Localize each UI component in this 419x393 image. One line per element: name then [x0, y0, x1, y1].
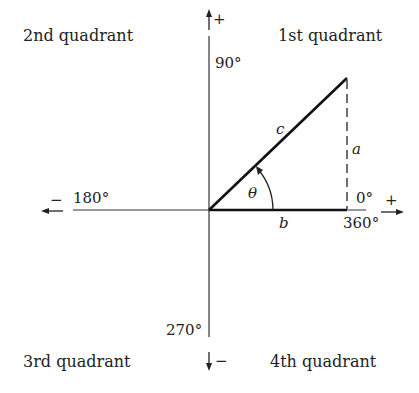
quadrant-3-label: 3rd quadrant: [23, 354, 130, 370]
angle-0-label: 0°: [356, 191, 373, 206]
right-arrow-icon: [381, 209, 404, 215]
quadrant-2-label: 2nd quadrant: [23, 28, 133, 44]
right-sign: +: [385, 193, 398, 208]
hypotenuse-line: [209, 78, 347, 210]
angle-90-label: 90°: [215, 56, 242, 71]
angle-arc-icon: [256, 166, 273, 210]
quadrant-1-label: 1st quadrant: [278, 28, 382, 44]
down-arrow-icon: [206, 352, 212, 371]
down-sign: −: [215, 354, 228, 369]
hypotenuse-label: c: [276, 122, 284, 137]
quadrant-4-label: 4th quadrant: [270, 354, 376, 370]
opposite-label: a: [352, 142, 361, 157]
angle-180-label: 180°: [73, 191, 109, 206]
adjacent-label: b: [279, 216, 289, 231]
angle-270-label: 270°: [166, 323, 202, 338]
left-sign: −: [50, 193, 63, 208]
up-arrow-icon: [206, 9, 212, 30]
quadrant-diagram: 2nd quadrant 1st quadrant 3rd quadrant 4…: [0, 0, 419, 393]
theta-label: θ: [248, 186, 257, 201]
up-sign: +: [213, 12, 226, 27]
angle-360-label: 360°: [343, 216, 379, 231]
